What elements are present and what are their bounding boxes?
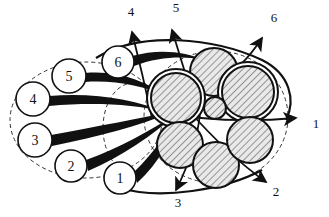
diagram-canvas: 123456 123456 (0, 0, 329, 217)
source-node-3-label: 3 (32, 133, 39, 148)
fasc-b (151, 73, 201, 123)
source-node-1[interactable]: 1 (104, 162, 136, 194)
exit-label-1: 1 (313, 116, 320, 131)
exit-label-4: 4 (128, 4, 135, 19)
exit-label-5: 5 (173, 0, 180, 15)
exit-label-2: 2 (273, 184, 280, 199)
diagram-svg: 123456 123456 (0, 0, 329, 217)
fasc-d (204, 97, 226, 119)
source-node-3[interactable]: 3 (18, 123, 52, 157)
source-node-4[interactable]: 4 (16, 82, 50, 116)
exit-label-6: 6 (271, 10, 278, 25)
source-node-2-label: 2 (68, 159, 75, 174)
exit-label-3: 3 (175, 195, 182, 210)
fasc-g (227, 117, 273, 163)
source-node-2[interactable]: 2 (55, 150, 87, 182)
source-node-5[interactable]: 5 (52, 59, 86, 93)
source-node-6[interactable]: 6 (102, 46, 134, 78)
source-node-6-label: 6 (115, 55, 122, 70)
source-node-4-label: 4 (30, 92, 37, 107)
source-node-5-label: 5 (66, 69, 73, 84)
fasc-c (222, 66, 274, 118)
source-node-1-label: 1 (117, 171, 124, 186)
